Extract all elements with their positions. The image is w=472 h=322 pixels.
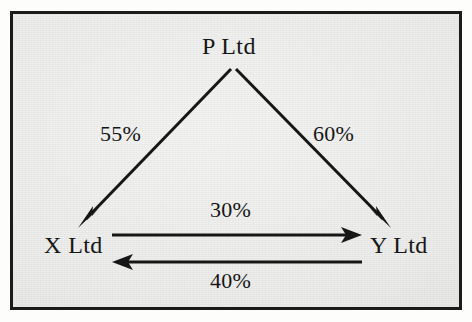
edge-p-to-y-line <box>236 69 383 219</box>
diagram-figure: P Ltd X Ltd Y Ltd 55% 60% 30% 40% <box>0 0 472 322</box>
edge-label-p-to-x: 55% <box>100 123 141 145</box>
node-label-y-ltd: Y Ltd <box>370 233 428 257</box>
edge-label-p-to-y: 60% <box>313 123 354 145</box>
edge-p-to-x <box>78 69 231 228</box>
edge-label-x-to-y: 30% <box>210 199 251 221</box>
node-label-p-ltd: P Ltd <box>202 34 256 58</box>
edge-label-y-to-x: 40% <box>210 270 251 292</box>
edge-x-to-y <box>112 227 362 243</box>
edge-p-to-y <box>236 69 391 228</box>
node-label-x-ltd: X Ltd <box>44 233 103 257</box>
